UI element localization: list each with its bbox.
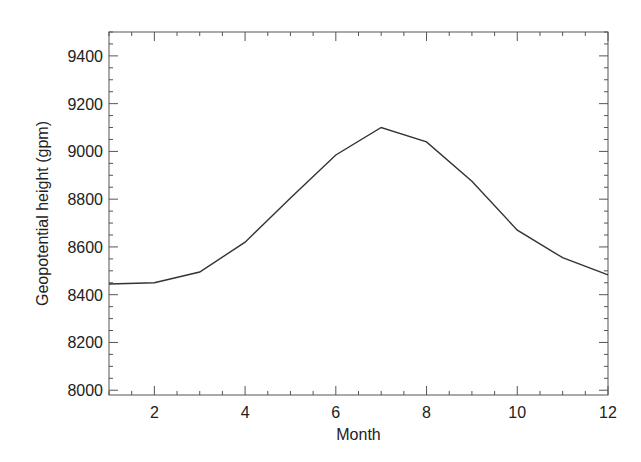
y-tick-label: 8600 [67, 239, 103, 256]
y-tick-label: 9000 [67, 143, 103, 160]
x-tick-label: 6 [331, 404, 340, 421]
plot-frame [109, 32, 608, 395]
x-tick-label: 12 [599, 404, 617, 421]
y-tick-label: 9200 [67, 96, 103, 113]
axis-ticks [109, 32, 608, 395]
line-chart: 2468101280008200840086008800900092009400… [0, 0, 641, 462]
y-tick-label: 8400 [67, 287, 103, 304]
x-axis-title: Month [336, 426, 380, 443]
y-tick-label: 8000 [67, 382, 103, 399]
tick-labels: 2468101280008200840086008800900092009400 [67, 48, 617, 421]
data-line [109, 128, 608, 285]
y-tick-label: 8200 [67, 334, 103, 351]
y-tick-label: 9400 [67, 48, 103, 65]
y-axis-title: Geopotential height (gpm) [34, 121, 51, 306]
x-tick-label: 10 [508, 404, 526, 421]
x-tick-label: 4 [241, 404, 250, 421]
x-tick-label: 2 [150, 404, 159, 421]
x-tick-label: 8 [422, 404, 431, 421]
y-tick-label: 8800 [67, 191, 103, 208]
